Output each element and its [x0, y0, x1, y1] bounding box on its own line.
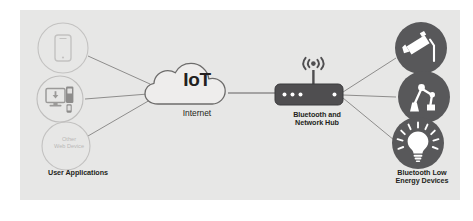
hub-antenna-mast — [312, 70, 314, 85]
line-smartphone-to-cloud — [88, 56, 150, 84]
node-robotic-arm[interactable] — [398, 71, 450, 123]
node-desktop[interactable] — [37, 76, 83, 122]
line-desktop-to-cloud — [85, 94, 148, 99]
node-hub[interactable] — [275, 58, 343, 105]
desktop-computer-icon — [46, 87, 73, 113]
robotic-arm-circle — [398, 71, 450, 123]
line-hub-to-security-camera — [343, 58, 396, 92]
other-web-device-label: Other Web Device — [41, 136, 97, 150]
node-smart-lightbulb[interactable] — [392, 117, 444, 169]
cloud-title: IoT — [155, 69, 239, 91]
desktop-circle-outline — [37, 76, 83, 122]
smartphone-circle-outline — [38, 23, 88, 73]
cloud-subtitle: Internet — [155, 109, 239, 119]
user-applications-label: User Applications — [18, 169, 138, 177]
line-hub-to-robotic-arm — [343, 95, 396, 97]
wifi-antenna-icon — [303, 58, 323, 69]
line-otherweb-to-cloud — [88, 100, 150, 136]
node-security-camera[interactable] — [395, 22, 447, 74]
ble-devices-label: Bluetooth Low Energy Devices — [370, 169, 473, 186]
smartphone-icon — [55, 35, 71, 61]
diagram-stage: IoT Internet Other Web Device User Appli… — [0, 0, 473, 221]
node-smartphone[interactable] — [38, 23, 88, 73]
hub-label: Bluetooth and Network Hub — [272, 111, 362, 128]
